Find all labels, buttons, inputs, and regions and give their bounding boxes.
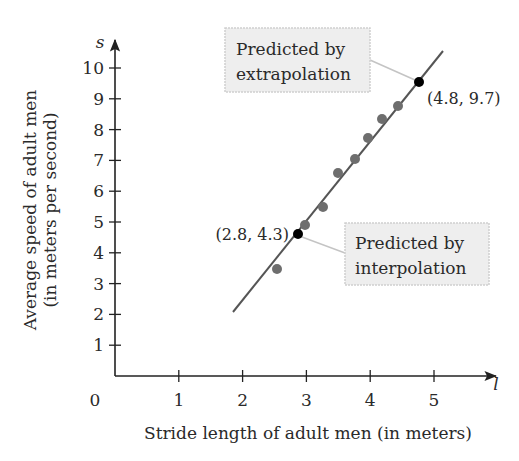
y-tick-label: 10: [82, 58, 104, 78]
x-tick-label: 5: [429, 390, 440, 410]
extrapolation-connector: [370, 60, 415, 80]
y-tick-label: 4: [93, 243, 104, 263]
y-tick-label: 7: [93, 150, 104, 170]
scatter-chart: 12345678910 12345 s l 0 Stride length of…: [0, 0, 519, 461]
x-variable-label: l: [493, 374, 498, 394]
y-tick-label: 3: [93, 274, 104, 294]
y-axis-title-line1: Average speed of adult men: [20, 90, 40, 332]
interpolation-point: [293, 229, 303, 239]
data-point: [377, 114, 387, 124]
y-tick-label: 6: [93, 181, 104, 201]
y-axis-title: Average speed of adult men (in meters pe…: [20, 90, 60, 332]
extrapolation-callout-line1: Predicted by: [236, 39, 346, 59]
extrapolation-coord-label: (4.8, 9.7): [427, 89, 501, 108]
interpolation-connector: [302, 237, 345, 253]
extrapolation-callout: Predicted by extrapolation: [225, 28, 370, 92]
data-point: [350, 154, 360, 164]
extrapolation-callout-line2: extrapolation: [236, 64, 351, 84]
y-tick-label: 9: [93, 89, 104, 109]
extrapolation-point: [414, 77, 424, 87]
x-tick-label: 2: [237, 390, 248, 410]
y-tick-label: 8: [93, 120, 104, 140]
x-tick-label: 4: [365, 390, 376, 410]
x-tick-label: 1: [173, 390, 184, 410]
y-variable-label: s: [96, 32, 105, 52]
data-point: [333, 168, 343, 178]
origin-label: 0: [90, 390, 101, 410]
y-tick-label: 2: [93, 304, 104, 324]
y-axis-title-line2: (in meters per second): [40, 112, 60, 307]
x-tick-label: 3: [301, 390, 312, 410]
data-point: [393, 101, 403, 111]
y-tick-label: 5: [93, 212, 104, 232]
data-point: [318, 202, 328, 212]
interpolation-callout-line1: Predicted by: [355, 233, 465, 253]
interpolation-callout: Predicted by interpolation: [345, 223, 489, 285]
interpolation-coord-label: (2.8, 4.3): [215, 225, 289, 244]
data-point: [363, 133, 373, 143]
y-tick-label: 1: [93, 335, 104, 355]
data-point: [300, 220, 310, 230]
interpolation-callout-line2: interpolation: [355, 258, 467, 278]
x-axis-title: Stride length of adult men (in meters): [144, 423, 472, 443]
data-point: [272, 264, 282, 274]
